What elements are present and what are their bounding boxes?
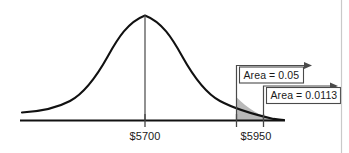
callout-two-label: Area = 0.0113 — [271, 89, 338, 101]
tick-label-mean: $5700 — [129, 130, 160, 142]
tick-label-upper: $5950 — [240, 130, 271, 142]
callout-one-label: Area = 0.05 — [244, 69, 300, 81]
callout-one-arrowhead — [304, 62, 312, 69]
normal-distribution-figure: $5700 $5950 Area = 0.05 Area = 0.0113 — [0, 0, 349, 153]
